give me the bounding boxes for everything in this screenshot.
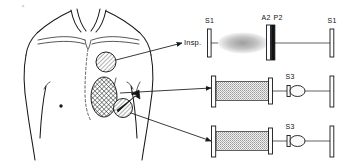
leader-to-tracing-2 — [120, 88, 211, 93]
right-torso-edge — [24, 55, 35, 160]
scan-artifact-speck — [22, 5, 24, 7]
tracing-1-p2-bar — [272, 25, 275, 60]
tracing-1-s1-first-label: S1 — [205, 17, 214, 24]
right-costal-margin — [40, 86, 46, 138]
left-torso-edge — [142, 55, 153, 160]
phonocardiogram-tracing-1: S1 A2 P2 S1 Insp. — [184, 14, 336, 60]
tracing-3-s1-second-bar — [330, 126, 334, 157]
tracing-2-s2-bar — [269, 78, 273, 104]
sternocleidomastoid-right — [77, 9, 86, 31]
tracing-3-s3-label: S3 — [286, 123, 295, 130]
neck-left-edge — [71, 10, 81, 32]
auscultation-site-left-lower-sternal-border[interactable] — [91, 77, 117, 117]
neck-right-edge — [96, 10, 106, 32]
left-clavicle-lower — [92, 41, 139, 44]
tracing-2-holosystolic-murmur — [216, 82, 269, 101]
cardiac-auscultation-figure: S1 A2 P2 S1 Insp. S3 S3 — [0, 0, 348, 164]
tracing-2-s1-second-bar — [330, 76, 334, 107]
phonocardiogram-tracing-2: S3 — [212, 73, 335, 107]
right-clavicle-lower — [38, 41, 85, 44]
tracing-3-s3-oval — [290, 136, 305, 147]
tracing-1-a2-bar — [267, 25, 271, 60]
tracing-3-s1-bar — [212, 126, 216, 157]
tracing-2-s3-label: S3 — [286, 73, 295, 80]
right-trapezius — [26, 11, 71, 55]
sternocleidomastoid-left — [91, 9, 100, 31]
leader-to-tracing-3 — [131, 113, 211, 141]
suprasternal-notch — [85, 40, 91, 49]
leader-lines — [116, 43, 211, 141]
tracing-1-p2-label: P2 — [274, 14, 283, 21]
left-trapezius — [106, 11, 151, 55]
figure-canvas: S1 A2 P2 S1 Insp. S3 S3 — [0, 0, 348, 164]
right-clavicle-upper — [38, 37, 85, 40]
tracing-1-s1-second-bar — [330, 29, 334, 57]
auscultation-site-pulmonic[interactable] — [96, 52, 116, 72]
tracing-1-s1-second-label: S1 — [328, 17, 337, 24]
tracing-1-s1-first-bar — [208, 29, 212, 57]
inspiration-label: Insp. — [184, 38, 201, 47]
tracing-2-s1-bar — [212, 76, 216, 107]
right-costal-tip — [44, 82, 50, 89]
torso-illustration — [22, 5, 153, 160]
left-clavicle-upper — [92, 37, 139, 40]
tracing-3-s2-bar — [269, 128, 273, 154]
tracing-1-ejection-murmur — [218, 33, 268, 54]
tracing-2-s3-oval — [290, 86, 305, 97]
tracing-1-a2-label: A2 — [262, 14, 271, 21]
left-sternal-border-dashed — [85, 49, 91, 121]
tracing-3-holosystolic-murmur — [216, 132, 269, 151]
right-nipple — [59, 104, 62, 107]
phonocardiogram-tracing-3: S3 — [212, 123, 335, 157]
left-costal-tip — [127, 82, 133, 89]
